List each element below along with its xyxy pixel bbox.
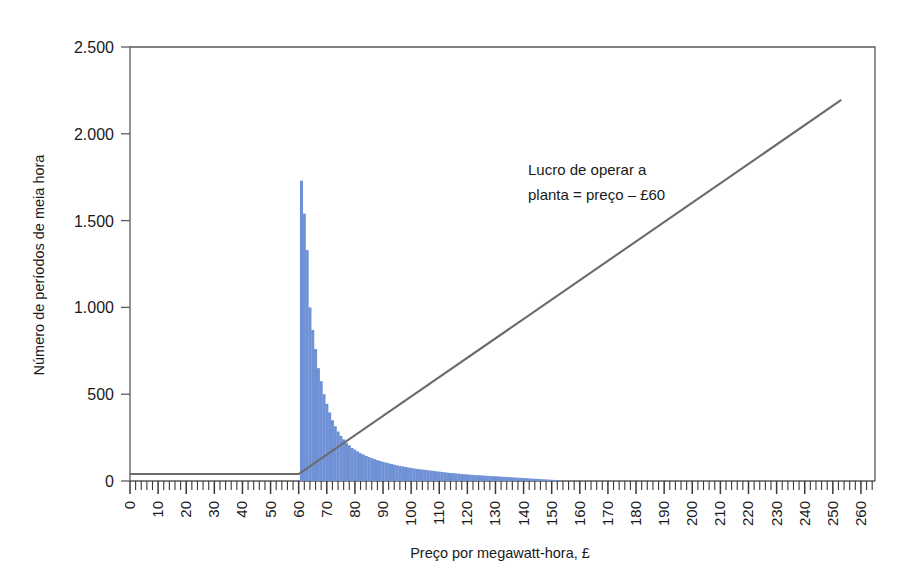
bar (491, 476, 494, 481)
bar (547, 480, 550, 481)
x-tick-label: 120 (458, 501, 475, 526)
bar (443, 472, 446, 481)
bar (477, 475, 480, 481)
x-tick-label: 80 (346, 501, 363, 518)
bar (438, 472, 441, 481)
bar (483, 476, 486, 481)
x-tick-label: 220 (739, 501, 756, 526)
bar (381, 462, 384, 481)
bar (412, 469, 415, 481)
bar (455, 474, 458, 481)
bar (387, 463, 390, 481)
x-tick-label: 20 (177, 501, 194, 518)
bar (404, 467, 407, 481)
y-tick-label: 2.000 (74, 126, 114, 143)
bar (396, 465, 399, 481)
bar (320, 381, 323, 481)
bar (446, 473, 449, 481)
bar (533, 479, 536, 481)
x-tick-label: 70 (318, 501, 335, 518)
bar (390, 464, 393, 481)
bar (553, 480, 556, 481)
x-tick-label: 0 (121, 501, 138, 509)
x-tick-label: 50 (262, 501, 279, 518)
bar (376, 460, 379, 481)
bar (511, 477, 514, 481)
x-tick-label: 30 (205, 501, 222, 518)
bar (460, 474, 463, 481)
bar (424, 470, 427, 481)
bar (516, 478, 519, 481)
bar (393, 465, 396, 481)
bar (539, 479, 542, 481)
bar (334, 426, 337, 481)
annotation-line-2: planta = preço – £60 (528, 186, 665, 203)
x-axis-title: Preço por megawatt-hora, £ (410, 545, 590, 561)
bar (432, 471, 435, 481)
bar (494, 476, 497, 481)
x-tick-label: 40 (233, 501, 250, 518)
x-tick-label: 240 (796, 501, 813, 526)
x-tick-label: 90 (374, 501, 391, 518)
bar (502, 477, 505, 481)
bar (466, 474, 469, 481)
bar (407, 467, 410, 481)
bar (306, 250, 309, 481)
y-tick-label: 0 (105, 473, 114, 490)
bar (463, 474, 466, 481)
bar (342, 439, 345, 481)
bar (325, 404, 328, 481)
bar (345, 443, 348, 481)
bar (336, 432, 339, 481)
x-tick-label: 60 (290, 501, 307, 518)
x-tick-label: 200 (683, 501, 700, 526)
bar (508, 477, 511, 481)
bar (530, 479, 533, 481)
y-tick-label: 500 (87, 386, 114, 403)
bar (449, 473, 452, 481)
bar (500, 477, 503, 481)
x-tick-label: 130 (486, 501, 503, 526)
bar (542, 479, 545, 481)
bar (550, 480, 553, 481)
bar (410, 468, 413, 481)
bar (322, 394, 325, 481)
bar (308, 307, 311, 481)
bar (300, 181, 303, 481)
bar (522, 478, 525, 481)
bar (525, 478, 528, 481)
x-tick-label: 250 (824, 501, 841, 526)
y-tick-label: 1.000 (74, 299, 114, 316)
bar (367, 457, 370, 481)
bar (435, 471, 438, 481)
bar (398, 466, 401, 481)
bar (362, 455, 365, 481)
x-tick-label: 170 (599, 501, 616, 526)
bar (418, 469, 421, 481)
x-tick-label: 100 (402, 501, 419, 526)
y-tick-label: 2.500 (74, 39, 114, 56)
bar (421, 470, 424, 481)
bar (339, 436, 342, 481)
bar (519, 478, 522, 481)
bar (311, 330, 314, 481)
x-tick-label: 180 (627, 501, 644, 526)
bar (384, 463, 387, 481)
bar (485, 476, 488, 481)
bar (480, 475, 483, 481)
bar (545, 479, 548, 481)
bar (328, 412, 331, 481)
bar (356, 451, 359, 481)
x-tick-label: 230 (768, 501, 785, 526)
bar (452, 473, 455, 481)
x-tick-label: 160 (571, 501, 588, 526)
bar (457, 474, 460, 481)
bar (514, 478, 517, 481)
price-distribution-chart: 05001.0001.5002.0002.500 010203040506070… (0, 0, 914, 580)
bar (505, 477, 508, 481)
bar (429, 471, 432, 481)
bar (415, 469, 418, 481)
y-axis-title: Número de períodos de meia hora (31, 154, 47, 376)
x-tick-label: 190 (655, 501, 672, 526)
bar (497, 476, 500, 481)
